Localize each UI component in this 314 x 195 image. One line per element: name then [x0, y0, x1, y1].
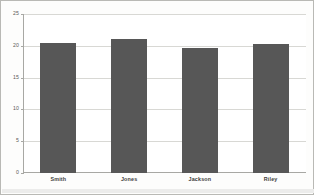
- bar: [111, 39, 147, 173]
- y-axis-tick-label: 5: [1, 138, 19, 143]
- y-axis-tick-mark: [21, 173, 24, 174]
- bars-layer: [23, 14, 306, 173]
- y-axis-tick-label: 25: [1, 11, 19, 16]
- x-axis-category-label: Smith: [23, 177, 94, 182]
- bar: [182, 48, 218, 173]
- y-axis-tick-label: 0: [1, 170, 19, 175]
- x-axis-category-label: Jones: [94, 177, 165, 182]
- chart-frame: 0510152025 SmithJonesJacksonRiley: [0, 0, 314, 195]
- x-axis-labels: SmithJonesJacksonRiley: [23, 177, 306, 189]
- x-axis-category-label: Riley: [235, 177, 306, 182]
- bar: [40, 43, 76, 173]
- bottom-strip: [2, 189, 314, 193]
- bar: [253, 44, 289, 173]
- y-axis-tick-label: 20: [1, 43, 19, 48]
- y-axis-tick-label: 10: [1, 106, 19, 111]
- x-axis-category-label: Jackson: [165, 177, 236, 182]
- y-axis-tick-label: 15: [1, 75, 19, 80]
